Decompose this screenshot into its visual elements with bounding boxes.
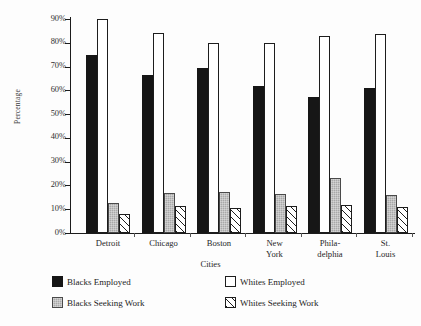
bar xyxy=(397,207,408,233)
y-axis-tick-mark xyxy=(65,90,70,91)
legend-label: Blacks Seeking Work xyxy=(67,298,145,308)
bar xyxy=(108,203,119,233)
bar-group xyxy=(86,19,130,233)
bar xyxy=(253,86,264,233)
bar xyxy=(153,33,164,233)
legend-item: Whites Employed xyxy=(225,276,305,287)
y-axis-tick-mark xyxy=(65,67,70,68)
x-axis-line xyxy=(70,233,415,234)
bar xyxy=(219,192,230,233)
bar xyxy=(364,88,375,233)
bar xyxy=(197,68,208,233)
bar xyxy=(175,206,186,233)
x-axis-tick-mark xyxy=(190,233,191,237)
bar xyxy=(164,193,175,233)
x-axis-tick-mark xyxy=(245,233,246,237)
bar xyxy=(86,55,97,233)
y-axis-tick-label: 30% xyxy=(34,157,66,165)
y-axis-tick-label: 70% xyxy=(34,62,66,70)
x-axis-tick-mark xyxy=(301,233,302,237)
legend-label: Whites Seeking Work xyxy=(240,298,319,308)
bar xyxy=(230,208,241,233)
y-axis-tick-label: 80% xyxy=(34,38,66,46)
y-axis-tick-label: 0% xyxy=(34,229,66,237)
y-axis-tick-mark xyxy=(65,185,70,186)
legend: Blacks EmployedWhites EmployedBlacks See… xyxy=(52,276,392,318)
bar-group xyxy=(253,19,297,233)
bar xyxy=(275,194,286,233)
y-axis-tick-label: 10% xyxy=(34,205,66,213)
bar xyxy=(264,43,275,233)
legend-row: Blacks EmployedWhites Employed xyxy=(52,276,392,297)
legend-swatch-icon xyxy=(52,276,63,287)
x-axis-category-line: St. xyxy=(351,238,421,249)
y-axis-tick-mark xyxy=(65,114,70,115)
y-axis-tick-mark xyxy=(65,43,70,44)
y-axis-tick-label: 50% xyxy=(34,110,66,118)
bar-group xyxy=(308,19,352,233)
x-axis-category-line: Louis xyxy=(351,249,421,260)
bar xyxy=(208,43,219,233)
legend-swatch-icon xyxy=(52,297,63,308)
bar-chart: Percentage 0%10%20%30%40%50%60%70%80%90%… xyxy=(0,0,421,326)
bar-group xyxy=(142,19,186,233)
x-axis-category-label: St.Louis xyxy=(351,238,421,259)
plot-area xyxy=(70,19,413,233)
legend-row: Blacks Seeking WorkWhites Seeking Work xyxy=(52,297,392,318)
bar xyxy=(142,75,153,233)
bar-group xyxy=(197,19,241,233)
y-axis-tick-mark xyxy=(65,138,70,139)
y-axis-tick-mark xyxy=(65,162,70,163)
bar xyxy=(330,178,341,233)
y-axis-title: Percentage xyxy=(13,62,22,152)
bar xyxy=(319,36,330,233)
y-axis-tick-mark xyxy=(65,233,70,234)
y-axis-tick-label: 60% xyxy=(34,86,66,94)
y-axis-tick-mark xyxy=(65,209,70,210)
bar xyxy=(119,214,130,233)
bar xyxy=(375,34,386,233)
x-axis-title: Cities xyxy=(0,259,421,269)
bar xyxy=(386,195,397,233)
legend-swatch-icon xyxy=(225,276,236,287)
y-axis-tick-label: 20% xyxy=(34,181,66,189)
x-axis-tick-mark xyxy=(412,233,413,237)
legend-item: Whites Seeking Work xyxy=(225,297,319,308)
x-axis-tick-mark xyxy=(356,233,357,237)
y-axis-tick-label: 90% xyxy=(34,15,66,23)
bar xyxy=(286,206,297,233)
bar xyxy=(97,19,108,233)
legend-swatch-icon xyxy=(225,297,236,308)
x-axis-tick-mark xyxy=(134,233,135,237)
bar xyxy=(308,97,319,233)
bar xyxy=(341,205,352,233)
y-axis-tick-mark xyxy=(65,19,70,20)
legend-item: Blacks Employed xyxy=(52,276,131,287)
bar-group xyxy=(364,19,408,233)
y-axis-tick-label: 40% xyxy=(34,133,66,141)
legend-label: Blacks Employed xyxy=(67,277,131,287)
legend-item: Blacks Seeking Work xyxy=(52,297,145,308)
legend-label: Whites Employed xyxy=(240,277,305,287)
